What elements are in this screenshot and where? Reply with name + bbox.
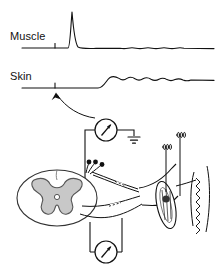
muscle-trace-line — [22, 12, 214, 49]
pointer-arrow-head — [52, 93, 61, 101]
spindle-ending-coil-2 — [177, 132, 185, 137]
earth-ground-symbol — [128, 137, 140, 143]
pointer-arrow-curve — [57, 95, 95, 119]
tendon — [176, 166, 210, 234]
spindle-equator-knot — [162, 195, 169, 202]
bouton-3 — [100, 162, 105, 167]
stimulus-pointer-arrow — [52, 93, 95, 119]
bouton-2 — [93, 160, 98, 165]
tendon-fascia-line — [191, 172, 194, 226]
muscle-trace — [22, 12, 214, 49]
figure-graphics — [0, 0, 223, 275]
tendon-outer-edge — [206, 166, 210, 232]
figure-canvas: Muscle Skin — [0, 0, 223, 275]
skin-trace — [22, 77, 214, 88]
central-canal — [54, 194, 59, 199]
synaptic-boutons — [86, 160, 104, 174]
tendon-zigzag — [196, 178, 200, 234]
spindle-ending-coil-1 — [163, 144, 171, 149]
skin-trace-line — [22, 77, 214, 88]
coiled-nerve-endings — [163, 132, 185, 196]
upper-meter[interactable] — [95, 119, 117, 141]
sensory-afferent-fiber-upper — [92, 172, 138, 189]
bouton-stalk-3 — [90, 165, 101, 174]
sensory-afferent-fiber-lower — [93, 175, 139, 192]
upper-meter-right-lead — [117, 130, 134, 136]
lower-meter[interactable] — [95, 241, 117, 263]
spinal-cord-cross-section — [17, 170, 97, 226]
bouton-1 — [87, 160, 92, 165]
tendon-attachment-lead — [176, 180, 196, 186]
